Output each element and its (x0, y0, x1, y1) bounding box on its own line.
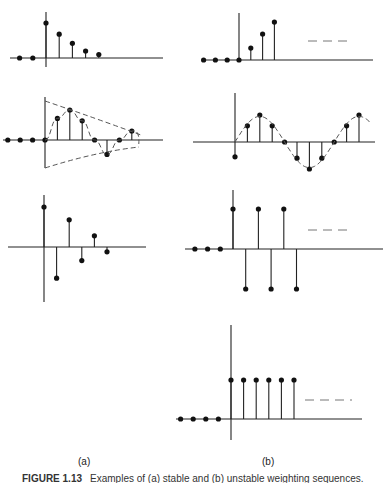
lower-envelope (45, 147, 139, 168)
sample-point (291, 377, 296, 382)
sample-point (201, 57, 206, 62)
sample-point (294, 156, 299, 161)
sample-point (54, 276, 59, 281)
caption-text: Examples of (a) stable and (b) unstable … (90, 473, 364, 483)
sample-point (272, 19, 277, 24)
sample-point (30, 137, 35, 142)
sample-point (178, 416, 183, 421)
figure-canvas: (a) (b) FIGURE 1.13Examples of (a) stabl… (0, 0, 385, 483)
sample-point (57, 32, 62, 37)
sample-point (213, 57, 218, 62)
sample-point (41, 204, 46, 209)
sample-point (254, 377, 259, 382)
sample-point (79, 258, 84, 263)
sample-point (228, 377, 233, 382)
panel-b4 (176, 325, 362, 440)
sample-point (232, 154, 237, 159)
label-a: (a) (78, 456, 90, 467)
panel-b3 (185, 190, 383, 292)
panel-a3 (8, 195, 146, 302)
sample-point (203, 416, 208, 421)
sample-point (294, 286, 299, 291)
sample-point (248, 45, 253, 50)
sample-point (269, 286, 274, 291)
sample-point (43, 20, 48, 25)
sample-point (218, 246, 223, 251)
sample-point (216, 416, 221, 421)
sample-point (225, 57, 230, 62)
sample-point (96, 52, 101, 57)
sample-point (243, 286, 248, 291)
sample-point (70, 41, 75, 46)
panel-a1 (10, 12, 163, 67)
sample-point (104, 249, 109, 254)
panel-b2 (193, 93, 375, 172)
sample-point (236, 57, 241, 62)
panel-b1 (201, 13, 373, 63)
sample-point (192, 246, 197, 251)
sample-point (17, 55, 22, 60)
sample-point (256, 206, 261, 211)
sample-point (191, 416, 196, 421)
sample-point (92, 233, 97, 238)
sample-point (281, 206, 286, 211)
sample-point (260, 31, 265, 36)
caption-number: FIGURE 1.13 (22, 473, 82, 483)
sample-point (30, 55, 35, 60)
sample-point (205, 246, 210, 251)
sample-point (241, 377, 246, 382)
label-b: (b) (262, 456, 274, 467)
sample-point (5, 137, 10, 142)
sample-point (279, 377, 284, 382)
figure-caption: FIGURE 1.13Examples of (a) stable and (b… (22, 473, 364, 483)
sample-point (230, 206, 235, 211)
panel-a2 (3, 97, 163, 168)
sample-point (266, 377, 271, 382)
sample-point (83, 48, 88, 53)
sample-point (67, 217, 72, 222)
sample-point (18, 137, 23, 142)
